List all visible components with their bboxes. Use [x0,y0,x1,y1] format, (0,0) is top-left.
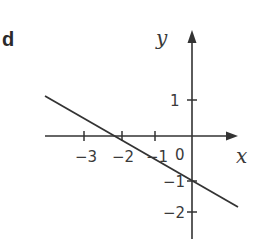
y-tick-label: −2 [163,204,185,222]
y-tick-label: 1 [170,92,180,110]
x-tick-label: −3 [75,148,97,166]
y-axis-arrow-icon [188,30,197,43]
y-tick-label: −1 [163,173,185,191]
origin-label: 0 [175,146,185,164]
x-axis-label: x [236,144,247,168]
coordinate-plot: −3 −2 −1 0 1 −1 −2 x y [0,0,268,252]
plotted-line [45,96,238,207]
x-axis-arrow-icon [226,132,238,141]
y-axis [187,30,197,239]
x-tick-label: −2 [112,148,134,166]
x-tick-label: −1 [146,148,168,166]
y-axis-label: y [155,26,168,50]
x-axis [45,131,238,141]
